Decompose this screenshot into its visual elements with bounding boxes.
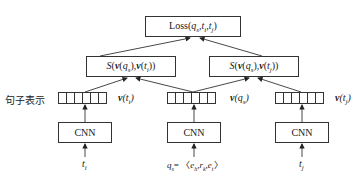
similarity-label-left: S(v(qs),v(ti)) [107,60,156,74]
vector-cell [98,92,107,104]
cnn-box-right: CNN [275,122,329,143]
vector-t-i [58,92,107,104]
loss-box: Loss(qs,ti,tj) [145,16,241,37]
cnn-box-left: CNN [58,122,112,143]
similarity-box-right: S(v(qs),v(tj)) [209,56,299,77]
vector-cell [207,92,216,104]
vector-cell [315,92,324,104]
sentence-representation-label: 句子表示 [5,92,45,107]
vector-label-t-j: v(tj) [335,92,351,106]
loss-label: Loss(qs,ti,tj) [169,20,217,34]
input-label-q-s: qs= 〈eh,rk,et〉 [167,158,223,172]
input-label-t-i: ti [82,158,87,172]
cnn-box-middle: CNN [167,122,221,143]
similarity-label-right: S(v(qs),v(tj)) [230,60,279,74]
vector-t-j [275,92,324,104]
vector-q-s [167,92,216,104]
input-label-t-j: tj [299,158,304,172]
vector-label-t-i: v(ti) [118,92,134,106]
vector-label-q-s: v(qs) [230,92,249,106]
similarity-box-left: S(v(qs),v(ti)) [86,56,176,77]
